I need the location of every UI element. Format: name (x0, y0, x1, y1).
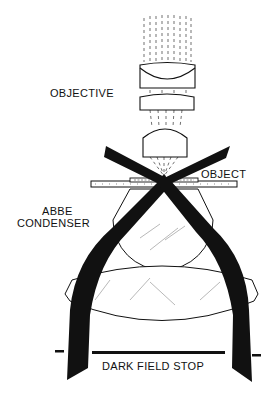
label-condenser-2: CONDENSER (17, 217, 90, 229)
label-object: OBJECT (201, 168, 246, 180)
objective-lens-1 (140, 63, 195, 89)
objective-lens-3 (143, 129, 187, 157)
stage-tick-left (55, 350, 64, 353)
label-condenser-1: ABBE (42, 205, 73, 217)
stage-tick-right (252, 354, 261, 357)
objective-lenses (140, 63, 195, 158)
label-dark-field-stop: DARK FIELD STOP (102, 360, 204, 372)
objective-lens-2 (140, 94, 194, 110)
label-objective: OBJECTIVE (50, 87, 114, 99)
dark-field-diagram (0, 0, 274, 401)
